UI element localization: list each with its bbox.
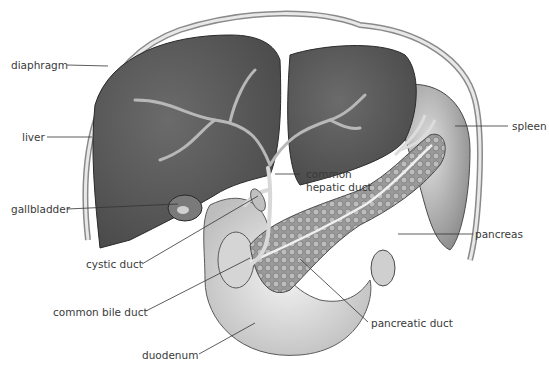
anatomy-diagram: diaphragm liver gallbladder cystic duct … bbox=[0, 0, 549, 370]
label-gallbladder: gallbladder bbox=[11, 203, 70, 215]
label-cystic-duct: cystic duct bbox=[86, 258, 143, 270]
label-common-bile-duct: common bile duct bbox=[53, 306, 148, 318]
label-common-hepatic-duct-line2: hepatic duct bbox=[306, 181, 372, 193]
gallbladder-highlight bbox=[177, 206, 189, 214]
label-spleen: spleen bbox=[512, 120, 547, 132]
label-duodenum: duodenum bbox=[142, 349, 198, 361]
duodenum-opening bbox=[371, 250, 395, 286]
duodenum-interior bbox=[218, 232, 254, 288]
label-liver: liver bbox=[22, 131, 45, 143]
label-diaphragm: diaphragm bbox=[11, 59, 68, 71]
label-common-hepatic-duct-line1: common bbox=[306, 168, 352, 180]
label-pancreatic-duct: pancreatic duct bbox=[371, 317, 453, 329]
label-pancreas: pancreas bbox=[475, 228, 523, 240]
